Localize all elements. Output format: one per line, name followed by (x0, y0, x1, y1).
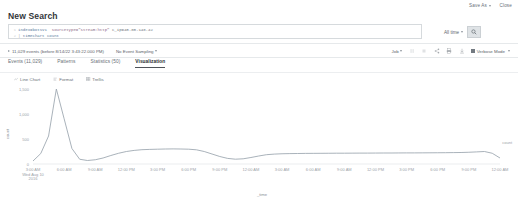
top-action-bar: Save As Close (0, 0, 518, 14)
series-line-count (33, 89, 500, 161)
x-axis-tick-label: 9:00 AM (337, 167, 352, 172)
event-count-text: 11,029 events (before 8/14/22 3:43:22.00… (12, 49, 104, 54)
stop-icon[interactable] (421, 48, 427, 54)
x-axis-tick-label: 6:00 PM (430, 167, 445, 172)
x-axis-tick-label: 9:00 PM (461, 167, 476, 172)
tab-visualization[interactable]: Visualization (135, 59, 165, 68)
x-axis: 3:00 AMWed Aug 1020166:00 AM9:00 AM12:00… (22, 167, 508, 181)
query-token-sourcetype: sourcetype="stream:http" (52, 28, 110, 32)
search-mode-label: Verbose Mode (477, 49, 505, 54)
chevron-down-icon (400, 50, 402, 52)
visualization-controls: Line Chart Format Trellis (14, 74, 414, 84)
chevron-right-icon (8, 50, 10, 52)
x-axis-tick-label: 2016 (29, 176, 39, 181)
x-axis-tick-label: 3:00 PM (399, 167, 414, 172)
x-axis-tick-label: 6:00 AM (57, 167, 72, 172)
result-tabs: Events (11,029) Patterns Statistics (50)… (8, 59, 510, 72)
event-count-label[interactable]: 11,029 events (before 8/14/22 3:43:22.00… (8, 49, 104, 54)
x-axis-tick-label: 12:00 PM (367, 167, 384, 172)
query-token-index: index=botsv1 (18, 28, 47, 32)
divider (0, 43, 518, 44)
x-axis-tick-label: 6:00 AM (306, 167, 321, 172)
legend-entry[interactable]: count (502, 140, 513, 145)
chevron-down-icon (461, 31, 463, 33)
trellis-icon (86, 77, 90, 81)
job-label: Job (392, 49, 399, 54)
splunk-search-page: Save As Close New Search 1 index=botsv1 … (0, 0, 518, 199)
event-sampling-selector[interactable]: No Event Sampling (116, 49, 157, 54)
y-axis-label: count (5, 128, 10, 139)
x-axis-tick-label: 12:00 AM (242, 167, 259, 172)
x-axis-label: _time (256, 192, 268, 197)
format-icon (53, 77, 57, 81)
search-controls: All time (444, 26, 481, 38)
event-sampling-label: No Event Sampling (116, 49, 154, 54)
x-axis-tick-label: 3:00 PM (150, 167, 165, 172)
share-icon[interactable] (434, 48, 440, 54)
tab-events[interactable]: Events (11,029) (8, 59, 42, 67)
search-mode-selector[interactable]: Verbose Mode (471, 49, 510, 54)
mode-icon (471, 49, 475, 53)
data-series-group (33, 89, 500, 161)
query-token-clientip: c_ip=40.80.148.42 (112, 28, 153, 32)
query-token-timechart: timechart count (23, 34, 59, 38)
chart-type-label: Line Chart (20, 77, 40, 82)
trellis-label: Trellis (92, 77, 104, 82)
y-axis-tick-label: 1,000 (19, 112, 30, 117)
x-axis-tick-label: 9:00 AM (88, 167, 103, 172)
chevron-down-icon (508, 50, 510, 52)
search-input[interactable]: 1 index=botsv1 sourcetype="stream:http" … (8, 24, 422, 39)
x-axis-tick-label: 3:00 AM (275, 167, 290, 172)
y-axis: 05001,0001,500 (19, 87, 500, 167)
time-range-label: All time (444, 30, 459, 35)
format-button[interactable]: Format (53, 77, 73, 82)
search-query-line-2: 2 | timechart count (12, 33, 418, 39)
print-icon[interactable] (446, 48, 452, 54)
x-axis-tick-label: 12:00 AM (492, 167, 509, 172)
chart-canvas: 05001,0001,500 3:00 AMWed Aug 1020166:00… (0, 84, 518, 199)
x-axis-tick-label: 9:00 PM (212, 167, 227, 172)
chart-legend: count (502, 140, 513, 145)
tab-patterns[interactable]: Patterns (57, 59, 75, 67)
y-axis-tick-label: 500 (22, 137, 29, 142)
divider (0, 57, 518, 58)
x-axis-tick-label: 12:00 PM (118, 167, 135, 172)
chevron-down-icon (155, 50, 157, 52)
job-menu-button[interactable]: Job (392, 49, 403, 54)
y-axis-tick-label: 0 (27, 162, 30, 167)
pause-icon[interactable] (409, 48, 415, 54)
search-submit-button[interactable] (467, 26, 481, 38)
magnifier-icon (471, 29, 477, 35)
chevron-down-icon (489, 5, 491, 7)
top-action-group: Save As Close (469, 3, 512, 8)
chart-type-selector[interactable]: Line Chart (14, 77, 40, 82)
trellis-button[interactable]: Trellis (86, 77, 104, 82)
tab-statistics[interactable]: Statistics (50) (91, 59, 121, 67)
line-chart-icon (14, 77, 18, 81)
download-icon[interactable] (459, 48, 465, 54)
save-as-label: Save As (469, 3, 487, 8)
divider (0, 72, 518, 73)
x-axis-tick-label: 6:00 PM (181, 167, 196, 172)
format-label: Format (59, 77, 73, 82)
close-button[interactable]: Close (500, 3, 513, 8)
results-toolbar-right: Job Verbose Mode (392, 48, 510, 54)
line-chart[interactable]: 05001,0001,500 3:00 AMWed Aug 1020166:00… (0, 84, 518, 199)
search-row: 1 index=botsv1 sourcetype="stream:http" … (8, 24, 510, 39)
y-axis-tick-label: 1,500 (19, 87, 30, 92)
results-toolbar: 11,029 events (before 8/14/22 3:43:22.00… (8, 45, 510, 57)
save-as-button[interactable]: Save As (469, 3, 490, 8)
time-range-picker[interactable]: All time (444, 30, 463, 35)
page-title: New Search (8, 11, 58, 21)
